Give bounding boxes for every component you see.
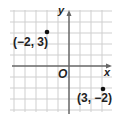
- point-label-neg2-3: (−2, 3): [13, 36, 48, 48]
- y-axis-label: y: [58, 5, 64, 16]
- x-axis-label: x: [104, 67, 110, 78]
- origin-label: O: [58, 68, 67, 80]
- point-label-3-neg2: (3, −2): [77, 92, 112, 104]
- y-axis: [67, 10, 72, 114]
- point-neg2-3: [45, 30, 50, 35]
